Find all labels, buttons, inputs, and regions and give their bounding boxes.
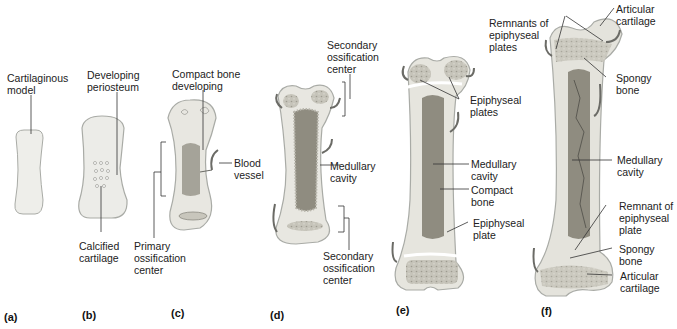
label-epiphyseal-plate: Epiphyseal plate — [473, 217, 524, 241]
label-remnants-of-epiphyseal-plates: Remnants of epiphyseal plates — [489, 17, 549, 53]
panel-label-c: (c) — [171, 307, 184, 319]
label-articular-cartilage-top: Articular cartilage — [616, 3, 656, 27]
label-spongy-bone-bottom: Spongy bone — [619, 243, 655, 267]
bone-c-primary-ossification — [168, 100, 218, 230]
label-secondary-ossification-center-bottom: Secondary ossification center — [323, 250, 375, 286]
label-secondary-ossification-center-top: Secondary ossification center — [327, 39, 379, 75]
panel-label-a: (a) — [4, 311, 17, 323]
label-compact-bone-developing: Compact bone developing — [172, 68, 240, 92]
bone-b-developing-periosteum — [79, 116, 127, 218]
label-epiphyseal-plates: Epiphyseal plates — [470, 94, 521, 118]
label-medullary-cavity-d: Medullary cavity — [330, 160, 376, 184]
bone-f-adult-long-bone — [534, 19, 623, 296]
label-medullary-cavity-e: Medullary cavity — [471, 158, 517, 182]
label-remnant-of-epiphyseal-plate: Remnant of epiphyseal plate — [619, 200, 673, 236]
label-medullary-cavity-f: Medullary cavity — [617, 154, 663, 178]
bone-e-epiphyseal-plates — [393, 57, 475, 291]
label-compact-bone: Compact bone — [471, 184, 513, 208]
label-cartilaginous-model: Cartilaginous model — [7, 72, 68, 96]
bone-a-cartilaginous-model — [15, 130, 43, 214]
panel-label-f: (f) — [541, 305, 552, 317]
label-spongy-bone-top: Spongy bone — [616, 72, 652, 96]
label-developing-periosteum: Developing periosteum — [87, 69, 140, 93]
label-blood-vessel: Blood vessel — [234, 157, 264, 181]
panel-label-e: (e) — [396, 304, 409, 316]
panel-label-d: (d) — [270, 309, 284, 321]
label-articular-cartilage-bottom: Articular cartilage — [620, 270, 660, 294]
label-calcified-cartilage: Calcified cartilage — [79, 240, 119, 264]
panel-label-b: (b) — [82, 309, 96, 321]
label-primary-ossification-center: Primary ossification center — [134, 240, 186, 276]
